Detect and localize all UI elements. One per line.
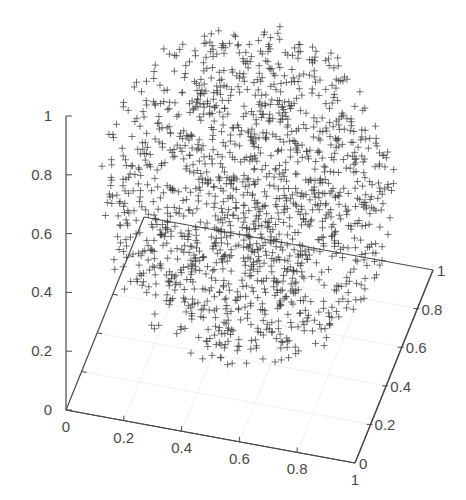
z-tick-label: 0.8 bbox=[31, 166, 52, 183]
z-axis: 00.20.40.60.81 bbox=[31, 107, 72, 418]
base-left-tick bbox=[113, 294, 118, 295]
x-axis: 00.20.40.60.81 bbox=[62, 410, 359, 488]
base-plane-grid bbox=[82, 228, 418, 453]
y-axis: 00.20.40.60.81 bbox=[355, 262, 445, 472]
grid-line bbox=[97, 333, 386, 386]
x-tick-label: 0.4 bbox=[171, 439, 192, 456]
base-left-tick bbox=[82, 371, 87, 372]
base-left-tick bbox=[97, 333, 102, 334]
y-tick-label: 0.2 bbox=[375, 416, 396, 433]
y-tick-label: 1 bbox=[437, 262, 445, 279]
y-tick-label: 0.4 bbox=[390, 378, 411, 395]
grid-line bbox=[82, 371, 371, 424]
base-back-edge bbox=[144, 217, 433, 270]
base-front-edge bbox=[66, 410, 355, 463]
y-tick-label: 0.8 bbox=[421, 301, 442, 318]
grid-line bbox=[113, 294, 402, 347]
x-tick-label: 0.8 bbox=[287, 460, 308, 477]
y-tick-label: 0 bbox=[359, 455, 367, 472]
z-tick-label: 1 bbox=[44, 107, 52, 124]
z-tick-label: 0.6 bbox=[31, 225, 52, 242]
y-tick-label: 0.6 bbox=[406, 339, 427, 356]
z-tick-label: 0.4 bbox=[31, 283, 52, 300]
x-tick-label: 0.2 bbox=[113, 429, 134, 446]
x-tick-label: 1 bbox=[351, 471, 359, 488]
x-tick-label: 0.6 bbox=[229, 450, 250, 467]
x-tick-label: 0 bbox=[62, 418, 70, 435]
z-tick-label: 0 bbox=[44, 401, 52, 418]
z-tick-label: 0.2 bbox=[31, 342, 52, 359]
scatter-3d-plot: 00.20.40.60.81 00.20.40.60.81 00.20.40.6… bbox=[0, 0, 466, 500]
